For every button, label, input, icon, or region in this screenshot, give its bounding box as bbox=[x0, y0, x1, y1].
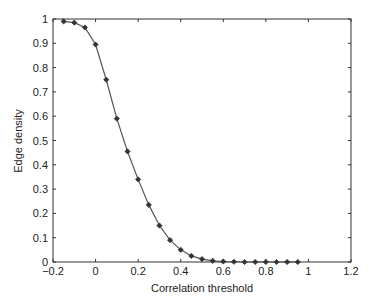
series-line bbox=[64, 21, 298, 262]
x-tick-label: 1.2 bbox=[343, 265, 358, 277]
diamond-marker bbox=[253, 259, 258, 264]
diamond-marker bbox=[104, 77, 109, 82]
y-tick-label: 0 bbox=[42, 256, 48, 268]
y-tick-label: 0.7 bbox=[33, 86, 48, 98]
diamond-marker bbox=[61, 19, 66, 24]
diamond-marker bbox=[136, 177, 141, 182]
x-tick-label: 1 bbox=[305, 265, 311, 277]
x-tick-label: 0 bbox=[93, 265, 99, 277]
diamond-marker bbox=[72, 20, 77, 25]
diamond-marker bbox=[210, 258, 215, 263]
x-tick-label: 0.6 bbox=[216, 265, 231, 277]
y-tick-label: 0.9 bbox=[33, 37, 48, 49]
diamond-marker bbox=[263, 259, 268, 264]
diamond-marker bbox=[221, 259, 226, 264]
y-tick-label: 0.3 bbox=[33, 183, 48, 195]
x-tick-label: 0.2 bbox=[130, 265, 145, 277]
diamond-marker bbox=[146, 202, 151, 207]
diamond-marker bbox=[199, 256, 204, 261]
diamond-marker bbox=[295, 259, 300, 264]
x-axis-label: Correlation threshold bbox=[151, 282, 253, 294]
diamond-marker bbox=[274, 259, 279, 264]
x-tick-label: 0.4 bbox=[173, 265, 188, 277]
edge-density-chart: −0.200.20.40.60.811.200.10.20.30.40.50.6… bbox=[0, 0, 377, 305]
y-axis-label: Edge density bbox=[12, 109, 24, 173]
x-tick-label: 0.8 bbox=[258, 265, 273, 277]
diamond-marker bbox=[285, 259, 290, 264]
diamond-marker bbox=[114, 116, 119, 121]
axes-box bbox=[53, 19, 351, 262]
y-tick-label: 0.8 bbox=[33, 62, 48, 74]
y-tick-label: 0.4 bbox=[33, 159, 48, 171]
y-tick-label: 0.5 bbox=[33, 135, 48, 147]
y-tick-label: 0.1 bbox=[33, 232, 48, 244]
diamond-marker bbox=[125, 149, 130, 154]
y-tick-label: 1 bbox=[42, 13, 48, 25]
y-tick-label: 0.6 bbox=[33, 110, 48, 122]
diamond-marker bbox=[231, 259, 236, 264]
diamond-marker bbox=[242, 259, 247, 264]
diamond-marker bbox=[189, 253, 194, 258]
y-tick-label: 0.2 bbox=[33, 207, 48, 219]
plot-area: −0.200.20.40.60.811.200.10.20.30.40.50.6… bbox=[33, 13, 359, 277]
